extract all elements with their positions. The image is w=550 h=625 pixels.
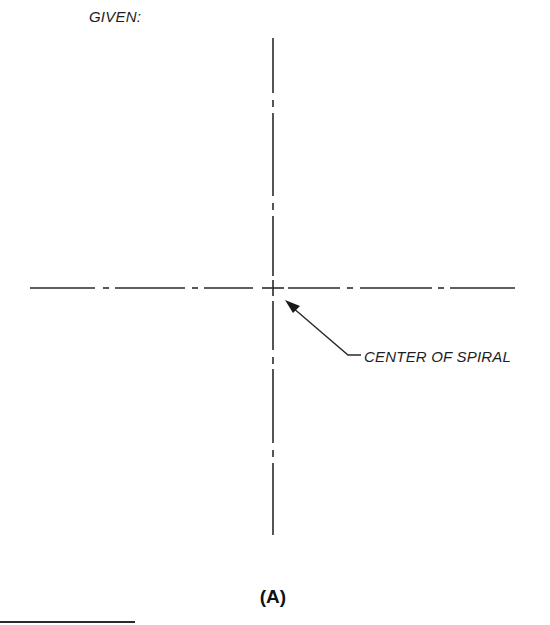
callout-leader <box>285 300 361 355</box>
center-cross-mark <box>262 280 284 296</box>
callout-label: CENTER OF SPIRAL <box>364 348 511 365</box>
bottom-rule <box>0 621 135 623</box>
figure-label: (A) <box>0 586 546 608</box>
technical-drawing <box>0 0 550 625</box>
